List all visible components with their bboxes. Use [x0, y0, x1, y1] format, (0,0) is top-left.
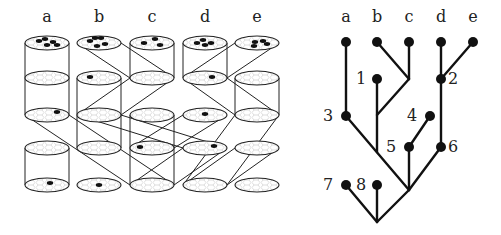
disk-ellipse	[130, 108, 174, 122]
leaf-label-a: a	[341, 7, 351, 26]
particle-dot	[87, 75, 93, 79]
particle-dot	[137, 145, 143, 149]
disk-e-4	[235, 178, 279, 192]
disk-a-0	[25, 36, 69, 50]
disk-ellipse	[183, 178, 227, 192]
disk-b-0	[77, 36, 121, 50]
disk-b-4	[77, 178, 121, 192]
leaf-label-c: c	[405, 7, 414, 26]
disk-a-1	[25, 71, 69, 85]
node-label-3: 3	[323, 106, 333, 125]
disk-c-2	[130, 108, 174, 122]
particle-dot	[202, 43, 208, 47]
tree-node-7	[341, 180, 351, 190]
disk-c-1	[130, 71, 174, 85]
particle-dot	[47, 181, 53, 185]
column-label-c: c	[148, 7, 157, 26]
particle-dot	[152, 37, 158, 41]
disk-d-1	[183, 71, 227, 85]
node-label-5: 5	[386, 137, 396, 156]
particle-dot	[94, 44, 100, 48]
particle-dot	[54, 110, 60, 114]
particle-dot	[96, 183, 102, 187]
disk-d-4	[183, 178, 227, 192]
tree-node-a	[341, 37, 351, 47]
particle-dot	[252, 40, 258, 44]
disk-e-3	[235, 141, 279, 155]
tree-node-1	[372, 74, 382, 84]
cylinder-lineage-diagram: abcde	[25, 7, 279, 192]
particle-dot	[42, 37, 48, 41]
particle-dot	[260, 39, 266, 43]
disk-ellipse	[25, 178, 69, 192]
disk-e-2	[235, 108, 279, 122]
disk-a-4	[25, 178, 69, 192]
tree-node-8	[372, 180, 382, 190]
disk-b-1	[77, 71, 121, 85]
particle-dot	[92, 36, 98, 40]
column-label-e: e	[252, 7, 261, 26]
disk-ellipse	[25, 71, 69, 85]
particle-dot	[264, 42, 270, 46]
node-label-4: 4	[407, 106, 417, 125]
node-label-8: 8	[356, 175, 366, 194]
genealogical-tree: abcde12345678	[323, 7, 478, 222]
disk-ellipse	[25, 141, 69, 155]
tree-node-3	[341, 111, 351, 121]
disk-ellipse	[77, 71, 121, 85]
column-label-d: d	[200, 7, 210, 26]
tree-edge	[377, 42, 409, 79]
disk-ellipse	[77, 108, 121, 122]
particle-dot	[98, 36, 104, 40]
tree-node-5	[404, 142, 414, 152]
leaf-label-b: b	[372, 7, 382, 26]
disk-e-0	[235, 36, 279, 50]
disk-d-3	[183, 141, 227, 155]
node-label-7: 7	[323, 175, 333, 194]
disk-e-1	[235, 71, 279, 85]
particle-dot	[44, 43, 50, 47]
disk-ellipse	[77, 141, 121, 155]
node-label-1: 1	[356, 69, 366, 88]
disk-b-3	[77, 141, 121, 155]
disk-c-3	[130, 141, 174, 155]
disk-ellipse	[235, 178, 279, 192]
node-label-6: 6	[448, 137, 458, 156]
diagram-canvas: abcde abcde12345678	[0, 0, 501, 235]
column-label-b: b	[94, 7, 104, 26]
tree-node-4	[425, 111, 435, 121]
disk-a-2	[25, 108, 69, 122]
column-labels: abcde	[42, 7, 262, 26]
disk-ellipse	[235, 71, 279, 85]
particle-dot	[211, 144, 217, 148]
disk-ellipse	[183, 141, 227, 155]
particle-dot	[209, 75, 215, 79]
particle-dot	[50, 40, 56, 44]
disk-a-3	[25, 141, 69, 155]
column-label-a: a	[42, 7, 52, 26]
particle-dot	[36, 39, 42, 43]
disk-c-0	[130, 36, 174, 50]
disk-ellipse	[235, 141, 279, 155]
tree-node-2	[436, 74, 446, 84]
particle-dot	[54, 43, 60, 47]
disk-ellipse	[130, 178, 174, 192]
disk-layer	[25, 36, 279, 192]
disk-d-0	[183, 36, 227, 50]
particle-dot	[200, 38, 206, 42]
particle-dot	[141, 41, 147, 45]
disk-ellipse	[25, 108, 69, 122]
leaf-label-e: e	[468, 7, 477, 26]
disk-ellipse	[183, 71, 227, 85]
tree-edge	[377, 79, 409, 115]
particle-dot	[194, 41, 200, 45]
particle-dot	[202, 112, 208, 116]
tree-node-6	[436, 142, 446, 152]
disk-ellipse	[130, 141, 174, 155]
particle-dot	[208, 41, 214, 45]
tree-node-e	[468, 37, 478, 47]
particle-dot	[87, 39, 93, 43]
tree-node-d	[436, 37, 446, 47]
tree-edge	[377, 190, 409, 222]
disk-ellipse	[130, 36, 174, 50]
